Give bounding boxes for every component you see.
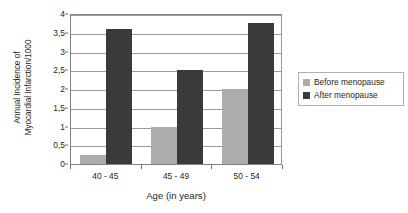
legend: Before menopause After menopause bbox=[298, 72, 404, 106]
bar-before-menopause bbox=[80, 155, 106, 164]
bar-group bbox=[71, 15, 142, 165]
x-tick-label: 50 - 54 bbox=[234, 171, 260, 181]
bar-group bbox=[142, 15, 213, 165]
x-tick-mark bbox=[282, 165, 283, 169]
bar-group bbox=[212, 15, 283, 165]
bar-before-menopause bbox=[222, 89, 248, 164]
y-tick-mark bbox=[65, 164, 68, 165]
bar-after-menopause bbox=[248, 23, 274, 164]
y-tick-mark bbox=[65, 70, 68, 71]
x-tick-label: 45 - 49 bbox=[163, 171, 189, 181]
bar-before-menopause bbox=[151, 127, 177, 165]
legend-item-after: After menopause bbox=[303, 89, 400, 102]
x-axis-baseline bbox=[71, 164, 282, 165]
y-tick-mark bbox=[65, 145, 68, 146]
y-tick-mark bbox=[65, 51, 68, 52]
x-tick-mark bbox=[141, 165, 142, 169]
y-tick-label: 1,5 bbox=[53, 104, 65, 112]
y-tick-mark bbox=[65, 89, 68, 90]
x-tick-label: 40 - 45 bbox=[92, 171, 118, 181]
bar-chart-figure: Annual Incidence of Myocardial Infarctio… bbox=[0, 0, 408, 213]
y-axis-tick-labels: 00,511,522,533,54 bbox=[44, 0, 68, 175]
legend-label-before: Before menopause bbox=[314, 78, 385, 87]
y-tick-label: 0,5 bbox=[53, 141, 65, 149]
plot-area bbox=[70, 14, 282, 165]
legend-swatch-before-icon bbox=[303, 79, 310, 86]
y-tick-label: 3,5 bbox=[53, 29, 65, 37]
y-axis-title-line-2: Myocardial Infarction/1000 bbox=[22, 39, 33, 135]
y-tick-mark bbox=[65, 14, 68, 15]
legend-item-before: Before menopause bbox=[303, 76, 400, 89]
bar-after-menopause bbox=[177, 70, 203, 164]
y-tick-mark bbox=[65, 107, 68, 108]
y-axis-title: Annual Incidence of Myocardial Infarctio… bbox=[0, 0, 44, 175]
y-axis-title-line-1: Annual Incidence of bbox=[12, 39, 23, 135]
legend-swatch-after-icon bbox=[303, 92, 310, 99]
x-tick-mark bbox=[211, 165, 212, 169]
legend-label-after: After menopause bbox=[314, 91, 378, 100]
y-tick-label: 2,5 bbox=[53, 66, 65, 74]
y-tick-mark bbox=[65, 32, 68, 33]
y-tick-mark bbox=[65, 126, 68, 127]
x-tick-mark bbox=[70, 165, 71, 169]
bar-after-menopause bbox=[106, 29, 132, 164]
x-axis-title: Age (in years) bbox=[70, 190, 282, 201]
